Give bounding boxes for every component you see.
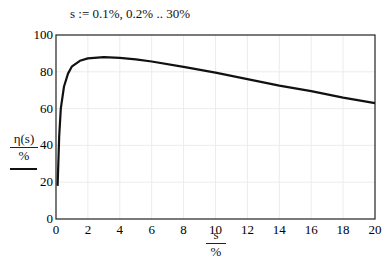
x-tick-label: 18: [337, 222, 350, 237]
x-tick-label: 16: [305, 222, 319, 237]
x-tick-label: 6: [148, 222, 155, 237]
y-tick-label: 20: [40, 174, 53, 189]
efficiency-curve: [58, 57, 375, 186]
x-tick-label: 8: [180, 222, 187, 237]
x-tick-label: 0: [53, 222, 60, 237]
y-tick-labels: 020406080100: [34, 27, 54, 226]
y-tick-label: 60: [40, 101, 53, 116]
y-tick-label: 80: [40, 64, 53, 79]
x-tick-label: 4: [117, 222, 124, 237]
x-tick-labels: 02468101214161820: [53, 222, 382, 237]
x-tick-label: 10: [209, 222, 222, 237]
x-tick-label: 20: [369, 222, 382, 237]
y-tick-label: 40: [40, 137, 53, 152]
x-tick-label: 12: [241, 222, 254, 237]
x-tick-label: 2: [85, 222, 92, 237]
y-tick-label: 100: [34, 27, 54, 42]
x-tick-label: 14: [273, 222, 287, 237]
gridlines: [56, 35, 375, 219]
line-chart: 020406080100 02468101214161820: [0, 0, 390, 267]
